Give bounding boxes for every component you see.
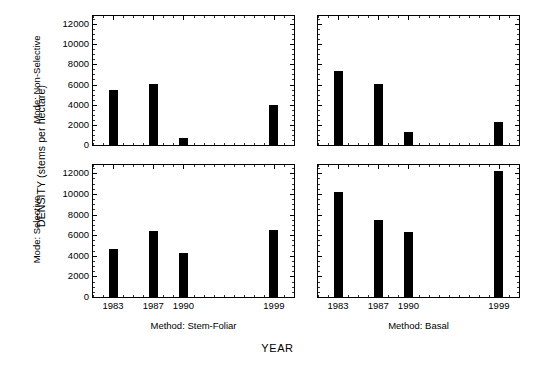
- y-tick: [290, 173, 294, 174]
- x-tick-minor: [358, 16, 359, 18]
- plot-area: [93, 165, 294, 297]
- x-tick-minor: [204, 165, 205, 167]
- x-tick-minor: [284, 16, 285, 18]
- x-tick-minor: [318, 143, 319, 145]
- y-tick-minor: [318, 266, 320, 267]
- y-tick: [515, 125, 519, 126]
- y-tick-minor: [292, 74, 294, 75]
- y-tick: [290, 235, 294, 236]
- y-tick: [290, 24, 294, 25]
- y-tick-minor: [318, 120, 320, 121]
- y-tick-minor: [318, 49, 320, 50]
- y-tick-minor: [292, 130, 294, 131]
- x-tick-minor: [264, 165, 265, 167]
- y-tick-minor: [93, 79, 95, 80]
- x-tick-minor: [143, 295, 144, 297]
- bar: [269, 230, 278, 297]
- x-tick-minor: [459, 143, 460, 145]
- x-tick-minor: [93, 295, 94, 297]
- y-tick: [318, 194, 322, 195]
- x-tick-minor: [449, 295, 450, 297]
- x-tick-minor: [469, 295, 470, 297]
- x-tick-minor: [133, 16, 134, 18]
- x-tick-minor: [244, 143, 245, 145]
- x-tick-minor: [224, 16, 225, 18]
- x-tick-minor: [173, 16, 174, 18]
- x-tick-minor: [204, 295, 205, 297]
- y-tick-label: 8000: [68, 60, 89, 70]
- y-tick-minor: [517, 130, 519, 131]
- x-tick-label: 1983: [328, 301, 349, 311]
- y-tick-minor: [93, 95, 95, 96]
- y-tick-minor: [517, 251, 519, 252]
- x-tick-minor: [254, 165, 255, 167]
- y-tick: [318, 105, 322, 106]
- bar: [374, 84, 383, 145]
- y-tick-minor: [318, 261, 320, 262]
- y-tick-minor: [517, 29, 519, 30]
- y-tick-minor: [318, 292, 320, 293]
- x-tick: [113, 165, 114, 169]
- y-tick-minor: [93, 178, 95, 179]
- x-tick-minor: [173, 295, 174, 297]
- y-tick-minor: [93, 230, 95, 231]
- y-tick-minor: [93, 54, 95, 55]
- x-tick: [338, 16, 339, 20]
- y-tick-minor: [517, 95, 519, 96]
- y-tick-minor: [93, 189, 95, 190]
- y-tick-label: 4000: [68, 100, 89, 110]
- y-tick-label: 6000: [68, 80, 89, 90]
- y-tick: [318, 235, 322, 236]
- x-tick-minor: [429, 16, 430, 18]
- x-tick-minor: [214, 165, 215, 167]
- y-tick-minor: [93, 140, 95, 141]
- y-tick-minor: [292, 95, 294, 96]
- x-tick-minor: [348, 165, 349, 167]
- y-tick: [318, 125, 322, 126]
- y-tick-minor: [318, 251, 320, 252]
- x-tick-minor: [204, 16, 205, 18]
- y-tick-minor: [318, 74, 320, 75]
- y-tick-label: 2000: [68, 120, 89, 130]
- bar: [109, 90, 118, 145]
- y-tick-minor: [318, 135, 320, 136]
- y-tick-minor: [517, 90, 519, 91]
- x-tick-minor: [254, 16, 255, 18]
- x-tick-minor: [479, 295, 480, 297]
- panel-1-0: 0200040006000800010000120001983198719901…: [92, 164, 295, 298]
- x-tick-minor: [284, 165, 285, 167]
- y-tick: [93, 215, 97, 216]
- y-tick-minor: [93, 74, 95, 75]
- y-tick-minor: [93, 251, 95, 252]
- x-tick-minor: [264, 295, 265, 297]
- x-tick-minor: [449, 143, 450, 145]
- x-tick-minor: [163, 143, 164, 145]
- x-tick-minor: [93, 16, 94, 18]
- y-tick-minor: [93, 120, 95, 121]
- y-tick-minor: [318, 130, 320, 131]
- x-tick-minor: [429, 143, 430, 145]
- y-tick-minor: [292, 100, 294, 101]
- y-tick-minor: [292, 49, 294, 50]
- x-tick-minor: [224, 165, 225, 167]
- y-tick-minor: [93, 282, 95, 283]
- y-tick: [318, 85, 322, 86]
- y-tick-minor: [517, 115, 519, 116]
- y-tick-minor: [292, 115, 294, 116]
- y-tick-minor: [318, 209, 320, 210]
- x-tick-minor: [163, 165, 164, 167]
- y-tick-minor: [517, 230, 519, 231]
- bar: [269, 105, 278, 145]
- x-tick-minor: [388, 16, 389, 18]
- x-tick-minor: [123, 143, 124, 145]
- x-tick-minor: [388, 295, 389, 297]
- x-tick-label: 1987: [368, 301, 389, 311]
- y-tick-minor: [93, 266, 95, 267]
- y-tick-minor: [93, 69, 95, 70]
- y-tick-minor: [517, 100, 519, 101]
- y-tick-minor: [292, 189, 294, 190]
- y-tick-minor: [318, 140, 320, 141]
- y-tick-label: 10000: [63, 39, 89, 49]
- x-tick: [378, 165, 379, 169]
- y-tick-minor: [318, 240, 320, 241]
